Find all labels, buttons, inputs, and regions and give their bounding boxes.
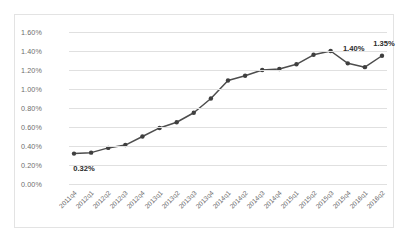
data-point-marker — [346, 61, 350, 65]
series-line — [74, 51, 382, 154]
data-point-label: 0.32% — [73, 163, 95, 172]
x-axis-tick-label: 2015q4 — [331, 189, 352, 210]
gridline — [69, 32, 387, 33]
y-axis-tick-label: 1.60% — [21, 28, 67, 37]
y-axis-tick-label: 0.80% — [21, 104, 67, 113]
x-axis-tick-label: 2014q1 — [211, 189, 232, 210]
y-axis-tick-label: 0.00% — [21, 180, 67, 189]
x-axis-tick-label: 2014q2 — [228, 189, 249, 210]
gridline — [69, 108, 387, 109]
y-axis-tick-label: 1.20% — [21, 66, 67, 75]
data-point-marker — [380, 54, 384, 58]
data-point-marker — [226, 78, 230, 82]
gridline — [69, 184, 387, 185]
gridline — [69, 51, 387, 52]
x-axis-labels: 2011q42012q12012q22012q32012q42013q12013… — [69, 187, 387, 229]
gridline — [69, 89, 387, 90]
x-axis-tick-label: 2016q2 — [365, 189, 386, 210]
data-point-marker — [363, 65, 367, 69]
y-axis-tick-label: 0.40% — [21, 142, 67, 151]
gridline — [69, 165, 387, 166]
x-axis-tick-label: 2013q4 — [194, 189, 215, 210]
x-axis-tick-label: 2012q1 — [74, 189, 95, 210]
data-point-marker — [140, 134, 144, 138]
gridline — [69, 70, 387, 71]
y-axis-tick-label: 0.20% — [21, 161, 67, 170]
x-axis-tick-label: 2014q3 — [245, 189, 266, 210]
plot-area: 0.32%1.40%1.35% — [69, 32, 387, 184]
data-point-marker — [174, 120, 178, 124]
x-axis-tick-label: 2015q2 — [297, 189, 318, 210]
gridline — [69, 127, 387, 128]
x-axis-tick-label: 2013q1 — [143, 189, 164, 210]
data-point-marker — [192, 111, 196, 115]
x-axis-tick-label: 2012q2 — [91, 189, 112, 210]
data-point-marker — [209, 96, 213, 100]
x-axis-tick-label: 2016q1 — [348, 189, 369, 210]
data-point-marker — [89, 150, 93, 154]
data-point-marker — [294, 62, 298, 66]
data-point-marker — [243, 74, 247, 78]
chart-frame: 1.60%1.40%1.20%1.00%0.80%0.60%0.40%0.20%… — [14, 14, 394, 228]
chart-plot-wrapper: 1.60%1.40%1.20%1.00%0.80%0.60%0.40%0.20%… — [15, 15, 395, 229]
x-axis-tick-label: 2012q4 — [126, 189, 147, 210]
data-point-label: 1.35% — [373, 38, 395, 47]
y-axis-tick-label: 1.40% — [21, 47, 67, 56]
gridline — [69, 146, 387, 147]
data-point-marker — [72, 151, 76, 155]
x-axis-tick-label: 2013q3 — [177, 189, 198, 210]
y-axis-tick-label: 1.00% — [21, 85, 67, 94]
data-point-label: 1.40% — [343, 44, 365, 53]
y-axis-labels: 1.60%1.40%1.20%1.00%0.80%0.60%0.40%0.20%… — [21, 15, 67, 229]
x-axis-tick-label: 2015q1 — [280, 189, 301, 210]
data-point-marker — [311, 53, 315, 57]
y-axis-tick-label: 0.60% — [21, 123, 67, 132]
